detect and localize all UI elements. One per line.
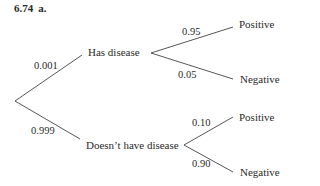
outcome-no-disease-positive: Positive <box>239 111 274 123</box>
node-no-disease: Doesn’t have disease <box>86 139 179 151</box>
prob-no-disease-positive: 0.10 <box>192 117 210 129</box>
outcome-has-disease-negative: Negative <box>240 73 280 85</box>
outcome-no-disease-negative: Negative <box>240 166 280 178</box>
node-has-disease: Has disease <box>88 46 140 58</box>
prob-no-disease: 0.999 <box>31 125 55 137</box>
prob-has-disease: 0.001 <box>34 60 58 72</box>
outcome-has-disease-positive: Positive <box>239 18 274 30</box>
prob-has-disease-positive: 0.95 <box>182 26 200 38</box>
prob-no-disease-negative: 0.90 <box>192 158 210 170</box>
prob-has-disease-negative: 0.05 <box>178 69 196 81</box>
